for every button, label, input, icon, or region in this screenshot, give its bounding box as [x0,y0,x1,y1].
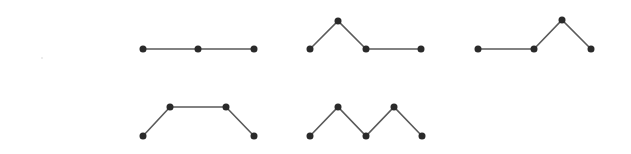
path-5-graph [307,104,426,140]
graph-node [363,133,370,140]
graph-node [335,18,342,25]
scan-speck [41,57,43,59]
path-2-graph [307,18,425,53]
graph-edges [310,107,422,136]
graph-node [251,133,258,140]
graph-node [167,104,174,111]
graph-node [140,46,147,53]
path-1-graph [140,46,258,53]
graph-edges [478,20,591,49]
graph-node [223,104,230,111]
graph-node [140,133,147,140]
path-3-graph [475,17,595,53]
graph-node [531,46,538,53]
graph-node [418,46,425,53]
graph-node [307,133,314,140]
graph-node [195,46,202,53]
graph-node [559,17,566,24]
figures-group [140,17,595,140]
graph-node [391,104,398,111]
graph-node [307,46,314,53]
graph-edges [310,21,421,49]
graph-edges [143,107,254,136]
graph-node [251,46,258,53]
graph-node [475,46,482,53]
graph-node [588,46,595,53]
path-4-graph [140,104,258,140]
graph-node [335,104,342,111]
graph-node [419,133,426,140]
graph-node [363,46,370,53]
diagram-canvas [0,0,631,154]
